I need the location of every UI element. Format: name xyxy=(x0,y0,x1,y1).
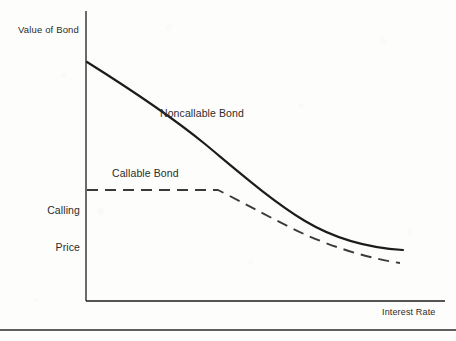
calling-price-axis-label: Calling Price xyxy=(18,179,80,278)
bond-value-chart xyxy=(0,0,456,341)
callable-bond-curve xyxy=(87,190,400,263)
x-axis-label: Interest Rate xyxy=(382,307,435,318)
y-axis-label: Value of Bond xyxy=(18,24,79,35)
noncallable-bond-curve xyxy=(87,62,403,250)
calling-price-label-line-1: Calling xyxy=(18,204,80,216)
noncallable-bond-label: Noncallable Bond xyxy=(160,107,244,119)
figure-canvas: Value of Bond Interest Rate Noncallable … xyxy=(0,0,456,341)
callable-bond-label: Callable Bond xyxy=(112,167,179,179)
calling-price-label-line-2: Price xyxy=(18,241,80,253)
